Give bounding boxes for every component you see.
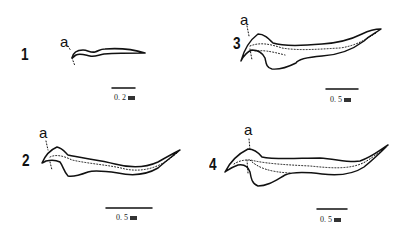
panel-2-outline: [42, 147, 180, 176]
panel-4-scale-value: 0. 5: [320, 215, 332, 224]
panel-4-number: 4: [209, 156, 217, 173]
panel-4-drawing: [225, 139, 388, 209]
panel-2-number: 2: [22, 152, 30, 169]
panel-1-outline: [72, 49, 145, 58]
mm-unit-glyph: [344, 98, 351, 102]
panel-4-scale-label: 0. 5: [320, 216, 341, 224]
panel-1-scale-label: 0. 2: [114, 94, 135, 102]
panel-4-inner-canal-2: [250, 160, 290, 173]
panel-1-marker-a: a: [60, 34, 68, 49]
panel-3-drawing: [241, 26, 381, 89]
panel-3-marker-a: a: [240, 12, 248, 27]
panel-1-number: 1: [21, 46, 29, 63]
panel-3-scale-label: 0. 5: [330, 96, 351, 104]
panel-1-scale-value: 0. 2: [114, 93, 126, 102]
panel-4-marker-a: a: [244, 122, 252, 137]
mm-unit-glyph: [128, 96, 135, 100]
mm-unit-glyph: [334, 218, 341, 222]
panel-1-drawing: [68, 46, 145, 88]
panel-2-scale-label: 0. 5: [116, 214, 137, 222]
panel-3-number: 3: [233, 35, 241, 52]
panel-3-outline: [241, 29, 381, 69]
panel-4-outline: [225, 145, 388, 186]
panel-3-scale-value: 0. 5: [330, 95, 342, 104]
panel-2-drawing: [42, 141, 180, 208]
mm-unit-glyph: [130, 216, 137, 220]
panel-2-scale-value: 0. 5: [116, 213, 128, 222]
panel-2-marker-a: a: [39, 125, 47, 140]
